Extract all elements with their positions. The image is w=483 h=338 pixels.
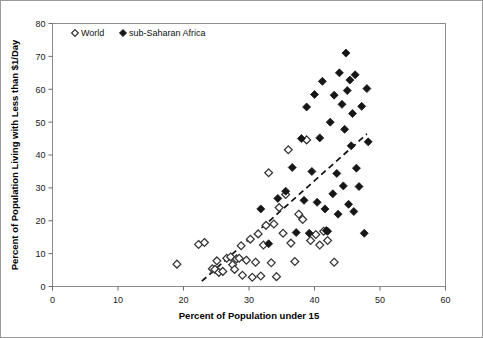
data-point [308,167,316,175]
data-point [334,210,342,218]
data-point [358,102,366,110]
series-sub-saharan-africa [257,49,372,248]
y-tick-label: 70 [35,52,45,62]
data-point [350,208,358,216]
data-point [363,85,371,93]
data-point [307,237,315,245]
data-point [330,91,338,99]
legend-marker-world [72,30,79,37]
data-point [275,204,283,212]
data-point [312,231,320,239]
y-tick-label: 40 [35,150,45,160]
data-point [213,257,221,265]
data-point [246,235,254,243]
data-point [257,205,265,213]
data-point [291,258,299,266]
data-point [270,220,278,228]
plot-frame [53,24,446,287]
chart-figure: 010203040506001020304050607080Percent of… [0,0,483,338]
data-point [326,118,334,126]
data-point [273,273,281,281]
data-point [287,239,295,247]
data-point [284,146,292,154]
legend-marker-sub-saharan-africa [119,29,126,36]
y-tick-label: 0 [40,282,45,292]
x-axis-title: Percent of Population under 15 [179,310,320,321]
data-point [346,76,354,84]
y-tick-label: 10 [35,249,45,259]
x-tick-label: 10 [113,295,123,305]
scatter-plot: 010203040506001020304050607080Percent of… [1,1,483,338]
data-point [341,125,349,133]
data-point [343,87,351,95]
data-point [348,110,356,118]
data-point [265,169,273,177]
data-point [351,71,359,79]
series-world [173,136,338,281]
data-point [316,241,324,249]
legend: Worldsub-Saharan Africa [72,28,206,38]
legend-label-sub-saharan-africa: sub-Saharan Africa [129,28,206,38]
data-point [360,229,368,237]
x-tick-label: 30 [244,295,254,305]
data-point [335,69,343,77]
y-tick-label: 50 [35,118,45,128]
data-point [267,259,275,267]
data-point [279,229,287,237]
data-point [345,200,353,208]
data-point [274,194,282,202]
data-point [352,164,360,172]
data-point [330,258,338,266]
data-point [305,229,313,237]
x-tick-label: 20 [178,295,188,305]
x-tick-label: 50 [375,295,385,305]
data-point [321,205,329,213]
data-point [173,260,181,268]
y-tick-label: 60 [35,85,45,95]
data-point [316,134,324,142]
data-point [288,163,296,171]
data-point [300,196,308,204]
data-point [257,272,265,280]
y-tick-label: 80 [35,19,45,29]
data-point [313,198,321,206]
data-point [342,49,350,57]
y-tick-label: 30 [35,183,45,193]
x-tick-label: 60 [440,295,450,305]
data-point [242,256,250,264]
data-point [252,258,260,266]
data-point [364,138,372,146]
x-tick-label: 0 [50,295,55,305]
data-point [303,103,311,111]
data-point [339,182,347,190]
data-point [239,271,247,279]
legend-label-world: World [81,28,104,38]
data-point [333,169,341,177]
data-point [338,100,346,108]
data-point [292,229,300,237]
data-point [347,142,355,150]
data-point [355,183,363,191]
y-tick-label: 20 [35,216,45,226]
data-point [311,91,319,99]
y-axis-title: Percent of Population Living with Less t… [9,39,20,270]
data-point [318,77,326,85]
data-point [324,237,332,245]
data-point [262,221,270,229]
data-point [237,242,245,250]
data-point [254,230,262,238]
data-point [329,190,337,198]
data-point [248,273,256,281]
x-tick-label: 40 [309,295,319,305]
